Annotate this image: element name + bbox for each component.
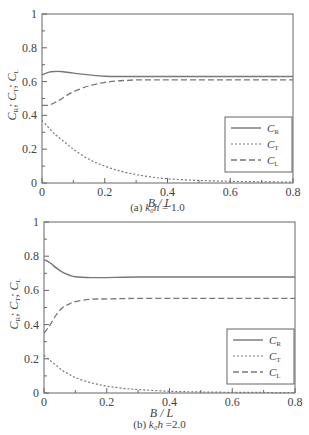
legend: CRCTCL	[225, 117, 292, 172]
y-tick-label: 0.2	[24, 352, 39, 366]
x-tick-label: 0.2	[97, 185, 112, 199]
chart-panel-a: 00.20.40.60.8100.20.40.60.8B / LCR; CT; …	[5, 7, 301, 214]
y-tick-label: 1	[31, 7, 37, 21]
y-tick-label: 0.4	[24, 318, 39, 332]
chart-figure: 00.20.40.60.8100.20.40.60.8B / LCR; CT; …	[0, 0, 309, 435]
x-tick-label: 0.8	[286, 185, 301, 199]
y-tick-label: 1	[33, 215, 39, 229]
x-tick-label: 0.2	[99, 395, 114, 409]
y-tick-label: 0.8	[22, 41, 37, 55]
x-tick-label: 0	[39, 185, 45, 199]
panel-caption: (a) k₀h = 1.0	[130, 201, 185, 214]
legend: CRCTCL	[227, 329, 294, 384]
y-tick-label: 0.6	[24, 283, 39, 297]
series-line-c-r	[42, 71, 293, 76]
y-tick-label: 0.8	[24, 249, 39, 263]
y-tick-label: 0.2	[22, 142, 37, 156]
y-tick-label: 0	[33, 386, 39, 400]
x-tick-label: 0.6	[225, 395, 240, 409]
chart-panel-b: 00.20.40.60.8100.20.40.60.8B / LCR; CT; …	[7, 215, 303, 431]
panel-caption: (b) k₀h =2.0	[133, 418, 186, 431]
y-axis-label: CR; CT; CL	[5, 69, 20, 120]
y-tick-label: 0.4	[22, 108, 37, 122]
y-tick-label: 0	[31, 176, 37, 190]
series-line-c-l	[42, 80, 293, 106]
series-line-c-r	[44, 260, 295, 278]
x-tick-label: 0	[41, 395, 47, 409]
y-axis-label: CR; CT; CL	[7, 278, 22, 329]
x-tick-label: 0.8	[288, 395, 303, 409]
x-tick-label: 0.6	[223, 185, 238, 199]
y-tick-label: 0.6	[22, 75, 37, 89]
series-line-c-l	[44, 298, 295, 333]
